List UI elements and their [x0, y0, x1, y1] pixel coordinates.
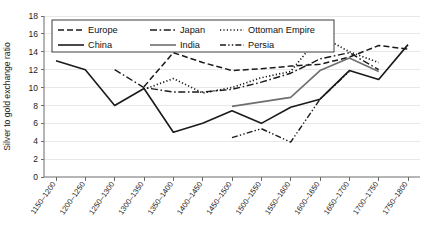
y-tick-label: 6: [33, 118, 38, 128]
y-tick-label: 4: [33, 136, 38, 146]
x-tick-label: 1650–1700: [322, 180, 351, 216]
y-axis-title-text: Silver to gold exchange ratio: [2, 42, 12, 151]
legend-label-europe: Europe: [88, 25, 118, 35]
x-tick-label: 1300–1350: [116, 180, 145, 216]
y-tick-label: 2: [33, 154, 38, 164]
x-tick-label: 1400–1450: [175, 180, 204, 216]
chart-legend: EuropeJapanOttoman EmpireChinaIndiaPersi…: [52, 20, 334, 52]
y-tick-label: 12: [29, 65, 39, 75]
y-tick-label: 16: [29, 29, 39, 39]
series-line-china: [56, 45, 408, 133]
line-chart: 024681012141618 1150–12001200–12501250–1…: [0, 0, 425, 237]
legend-label-india: India: [180, 40, 201, 50]
x-axis: 1150–12001200–12501250–13001300–13501350…: [29, 177, 420, 216]
chart-container: 024681012141618 1150–12001200–12501250–1…: [0, 0, 425, 237]
x-tick-label: 1450–1500: [204, 180, 233, 216]
y-tick-label: 14: [29, 47, 39, 57]
x-tick-label: 1550–1600: [263, 180, 292, 216]
x-tick-label: 1250–1300: [87, 180, 116, 216]
x-tick-label: 1700–1750: [351, 180, 380, 216]
series-line-india: [232, 58, 379, 106]
x-tick-label: 1600–1650: [292, 180, 321, 216]
y-axis: 024681012141618: [29, 11, 44, 182]
y-tick-label: 0: [33, 172, 38, 182]
x-tick-label: 1750–1800: [380, 180, 409, 216]
x-tick-label: 1150–1200: [29, 180, 58, 216]
x-tick-label: 1350–1400: [146, 180, 175, 216]
x-tick-label: 1200–1250: [58, 180, 87, 216]
legend-label-persia: Persia: [248, 40, 275, 50]
legend-label-china: China: [88, 40, 113, 50]
legend-label-ottoman-empire: Ottoman Empire: [248, 25, 315, 35]
x-tick-label: 1500–1550: [234, 180, 263, 216]
y-axis-title: Silver to gold exchange ratio: [2, 42, 12, 151]
legend-label-japan: Japan: [180, 25, 205, 35]
y-tick-label: 8: [33, 101, 38, 111]
y-tick-label: 10: [29, 83, 39, 93]
y-tick-label: 18: [29, 11, 39, 21]
